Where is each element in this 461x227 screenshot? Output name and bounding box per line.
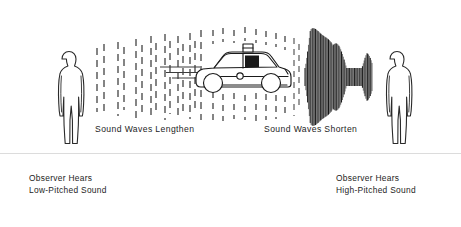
sound-emission-rays [160, 67, 200, 78]
observer-left-label-line1: Observer Hears [29, 172, 107, 184]
right-transition-dashes [294, 38, 299, 116]
doppler-effect-figure: Sound Waves Lengthen Sound Waves Shorten… [0, 0, 461, 227]
observer-right-label-line2: High-Pitched Sound [336, 184, 416, 196]
observer-right-label-line1: Observer Hears [336, 172, 416, 184]
observer-right-silhouette [387, 52, 412, 144]
observer-left-label-line2: Low-Pitched Sound [29, 184, 107, 196]
observer-right-label: Observer Hears High-Pitched Sound [336, 172, 416, 196]
caption-sound-waves-lengthen: Sound Waves Lengthen [95, 124, 194, 134]
observer-left-label: Observer Hears Low-Pitched Sound [29, 172, 107, 196]
right-wave-field [305, 28, 372, 126]
caption-sound-waves-shorten: Sound Waves Shorten [264, 124, 357, 134]
observer-left-silhouette [59, 52, 84, 144]
left-wave-field [97, 30, 201, 120]
police-car-icon [196, 44, 291, 93]
